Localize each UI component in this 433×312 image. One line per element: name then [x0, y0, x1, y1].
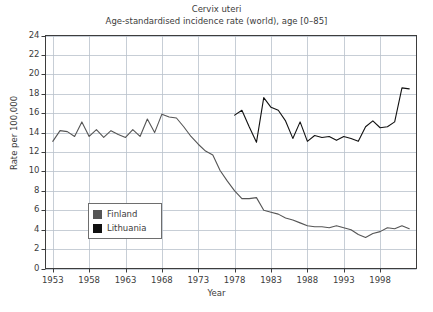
y-tick-label: 16 — [18, 107, 40, 117]
series-line-lithuania — [235, 88, 410, 142]
plot-area — [0, 0, 433, 312]
y-tick-label: 14 — [18, 127, 40, 137]
x-tick-label: 1988 — [287, 275, 327, 285]
legend-swatch-finland — [93, 210, 102, 219]
legend-item-lithuania[interactable]: Lithuania — [93, 221, 157, 235]
y-tick-label: 8 — [18, 185, 40, 195]
y-tick-label: 24 — [18, 30, 40, 40]
legend-item-finland[interactable]: Finland — [93, 207, 157, 221]
y-tick-label: 20 — [18, 68, 40, 78]
x-tick-label: 1968 — [142, 275, 182, 285]
y-tick-label: 22 — [18, 49, 40, 59]
y-tick-label: 4 — [18, 224, 40, 234]
y-tick-label: 2 — [18, 243, 40, 253]
y-tick-label: 0 — [18, 263, 40, 273]
y-tick-label: 10 — [18, 165, 40, 175]
y-tick-label: 6 — [18, 204, 40, 214]
x-tick-label: 1973 — [178, 275, 218, 285]
chart-legend: Finland Lithuania — [88, 203, 162, 239]
x-axis-label: Year — [0, 288, 433, 298]
legend-swatch-lithuania — [93, 224, 102, 233]
chart-figure: Cervix uteri Age-standardised incidence … — [0, 0, 433, 312]
x-tick-label: 1958 — [69, 275, 109, 285]
x-tick-label: 1953 — [33, 275, 73, 285]
x-tick-label: 1983 — [251, 275, 291, 285]
y-axis-label: Rate per 100,000 — [9, 93, 19, 173]
y-tick-label: 18 — [18, 88, 40, 98]
x-tick-label: 1978 — [215, 275, 255, 285]
y-tick-label: 12 — [18, 146, 40, 156]
legend-label-lithuania: Lithuania — [107, 223, 146, 233]
x-tick-label: 1993 — [324, 275, 364, 285]
x-tick-label: 1963 — [106, 275, 146, 285]
x-tick-label: 1998 — [360, 275, 400, 285]
legend-label-finland: Finland — [107, 209, 137, 219]
